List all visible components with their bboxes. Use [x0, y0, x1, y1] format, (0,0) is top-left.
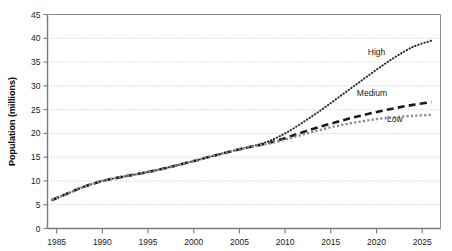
chart-background	[0, 0, 452, 251]
chart-canvas: 051015202530354045 198519901995200020052…	[0, 0, 452, 251]
y-axis-tick-label: 40	[31, 33, 41, 43]
y-axis-tick-label: 5	[36, 200, 41, 210]
x-axis-tick-label: 2000	[184, 237, 203, 247]
series-annotation-low: Low	[387, 114, 403, 124]
x-axis-tick-labels: 198519901995200020052010201520202025	[47, 237, 432, 247]
x-axis-tick-label: 2025	[413, 237, 432, 247]
y-axis-tick-label: 45	[31, 10, 41, 20]
x-axis-tick-label: 1995	[139, 237, 158, 247]
x-axis-tick-label: 1990	[93, 237, 112, 247]
x-axis-tick-label: 2020	[367, 237, 386, 247]
x-axis-tick-label: 2005	[230, 237, 249, 247]
x-axis-tick-label: 2010	[276, 237, 295, 247]
y-axis-tick-label: 35	[31, 57, 41, 67]
population-projection-chart: 051015202530354045 198519901995200020052…	[0, 0, 452, 251]
y-axis-tick-label: 20	[31, 128, 41, 138]
y-axis-title: Population (millions)	[7, 77, 17, 166]
x-axis-tick-label: 1985	[47, 237, 66, 247]
y-axis-tick-label: 25	[31, 105, 41, 115]
y-axis-tick-label: 10	[31, 176, 41, 186]
y-axis-tick-label: 15	[31, 152, 41, 162]
series-annotation-medium: Medium	[357, 88, 387, 98]
y-axis-tick-label: 30	[31, 81, 41, 91]
y-axis-tick-label: 0	[36, 224, 41, 234]
series-annotation-high: High	[368, 47, 386, 57]
x-axis-tick-label: 2015	[321, 237, 340, 247]
